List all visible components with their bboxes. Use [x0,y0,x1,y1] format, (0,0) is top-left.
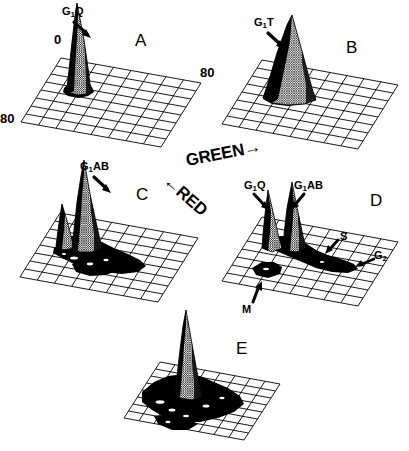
panel-d-peak-label-g2: G2 [374,250,387,261]
panel-c-grid [18,208,203,303]
panel-c-peak-label-g1ab: G1AB [80,161,109,172]
panel-c: G1AB C [18,208,203,303]
figure-canvas: G1Q 0 80 80 A [0,0,409,451]
panel-b: G1T B [222,55,402,150]
panel-d-arrow-g1ab [288,193,310,212]
panel-d: G1Q G1AB S G2 [222,212,402,307]
panel-c-arrow-g1ab [92,175,116,195]
panel-a-grid [20,50,210,145]
panel-a-tick-zero: 0 [54,33,61,46]
panel-e-grid [124,358,284,448]
panel-e-letter: E [236,340,247,357]
panel-a: G1Q 0 80 80 A [20,50,210,145]
panel-d-peak-label-g1ab: G1AB [294,180,323,191]
panel-d-letter: D [370,192,382,209]
panel-d-peak-label-g1q: G1Q [244,180,266,191]
panel-b-letter: B [346,39,357,56]
panel-a-letter: A [135,32,146,49]
panel-a-tick-right-80: 80 [200,66,214,79]
panel-d-peak-label-s: S [340,231,347,242]
panel-d-arrow-g1q [252,193,274,212]
panel-e: E [124,358,284,448]
panel-c-letter: C [136,186,148,203]
panel-b-grid [222,55,402,150]
panel-d-peak-label-m: M [242,304,251,315]
panel-b-peak-label-g1t: G1T [254,17,274,28]
panel-b-arrow-g1t [266,31,290,51]
panel-a-peak-label-g1q: G1Q [62,6,84,17]
panel-a-arrow-g1q [72,20,96,40]
panel-a-tick-left-80: 80 [0,112,14,125]
